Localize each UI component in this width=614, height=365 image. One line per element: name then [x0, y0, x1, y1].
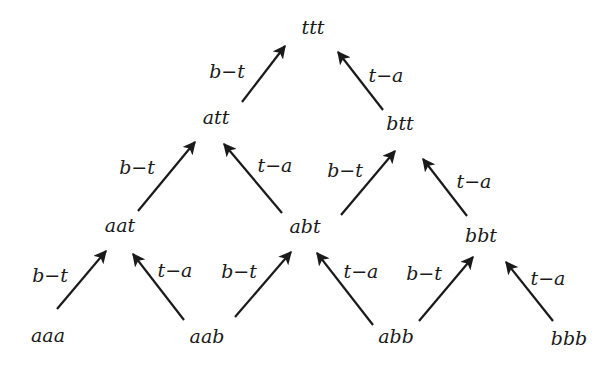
node-bbb: bbb	[551, 327, 588, 349]
edge-att-to-ttt: b−t	[209, 46, 285, 102]
edge-label: t−a	[158, 259, 193, 281]
edge-label: t−a	[531, 267, 566, 289]
edge-label: b−t	[209, 60, 245, 82]
edge-label: b−t	[406, 262, 442, 284]
edge-aab-to-abt: b−t	[221, 252, 291, 317]
node-abt: abt	[289, 215, 320, 237]
node-bbt: bbt	[465, 224, 497, 246]
node-abb: abb	[378, 325, 414, 347]
edge-label: b−t	[32, 264, 68, 286]
edge-aab-to-aat: t−a	[133, 254, 192, 320]
edge-bbt-to-btt: t−a	[423, 159, 491, 216]
edge-abb-to-bbt: b−t	[406, 257, 473, 321]
edge-label: b−t	[327, 159, 363, 181]
edge-label: t−a	[457, 170, 492, 192]
edge-label: t−a	[369, 64, 404, 86]
edge-aat-to-att: b−t	[119, 142, 195, 211]
edge-label: t−a	[344, 260, 379, 282]
edge-abt-to-btt: b−t	[327, 151, 395, 215]
lattice-diagram: b−tt−ab−tt−ab−tt−ab−tt−ab−tt−ab−tt−a ttt…	[0, 0, 614, 365]
edge-btt-to-ttt: t−a	[338, 52, 403, 110]
node-aat: aat	[105, 214, 136, 236]
edge-label: t−a	[258, 154, 293, 176]
node-btt: btt	[386, 112, 414, 134]
node-group: tttattbttaatabtbbtaaaaababbbbb	[31, 16, 587, 349]
arrow-up-icon	[242, 46, 285, 102]
edge-abt-to-att: t−a	[224, 144, 292, 213]
edge-aaa-to-aat: b−t	[32, 251, 106, 309]
edge-bbb-to-bbt: t−a	[506, 262, 565, 321]
node-att: att	[203, 106, 230, 128]
edge-label: b−t	[221, 260, 257, 282]
edge-group: b−tt−ab−tt−ab−tt−ab−tt−ab−tt−ab−tt−a	[32, 46, 565, 325]
edge-label: b−t	[119, 156, 155, 178]
node-aaa: aaa	[31, 324, 65, 346]
node-aab: aab	[190, 325, 225, 347]
node-ttt: ttt	[302, 16, 325, 38]
edge-abb-to-abt: t−a	[317, 253, 378, 325]
